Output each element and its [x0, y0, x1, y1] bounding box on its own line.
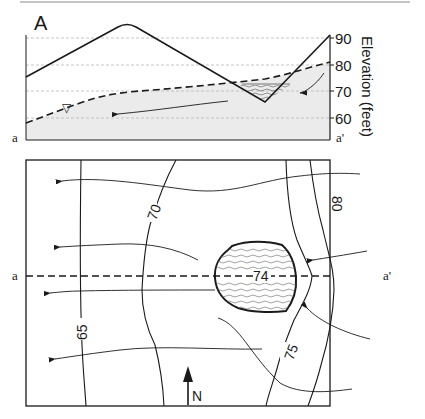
hydrogeology-diagram: A ▽	[0, 0, 425, 419]
map-label-a: a	[12, 268, 18, 283]
panel-label: A	[34, 12, 48, 34]
tick-60: 60	[335, 110, 352, 127]
north-arrow-icon	[183, 366, 193, 382]
section-label-a: a	[12, 130, 18, 145]
flow-arrow-map	[50, 290, 215, 293]
contour-65	[80, 160, 86, 406]
tick-70: 70	[335, 83, 352, 100]
flow-arrow-map	[307, 308, 370, 339]
saturated-zone	[26, 62, 330, 140]
section-label-a-prime: a'	[336, 130, 344, 145]
water-table-symbol: ▽	[62, 101, 72, 115]
north-label: N	[192, 388, 202, 404]
map-label-a-prime: a'	[383, 268, 391, 283]
tick-90: 90	[335, 30, 352, 47]
axis-title: Elevation (feet)	[359, 36, 376, 137]
contour-70	[142, 160, 176, 406]
cross-section-panel: A ▽	[12, 12, 376, 145]
contour-label-80: 80	[329, 196, 345, 212]
north-arrow: N	[183, 366, 202, 405]
flow-arrow-map	[313, 251, 367, 260]
contour-label-65: 65	[74, 324, 90, 340]
flow-arrow-map	[55, 348, 262, 359]
tick-80: 80	[335, 57, 352, 74]
flow-arrow-map	[62, 173, 360, 191]
map-panel: 65 70 75 80 74 a a'	[12, 160, 391, 406]
lake-label: 74	[253, 268, 269, 284]
